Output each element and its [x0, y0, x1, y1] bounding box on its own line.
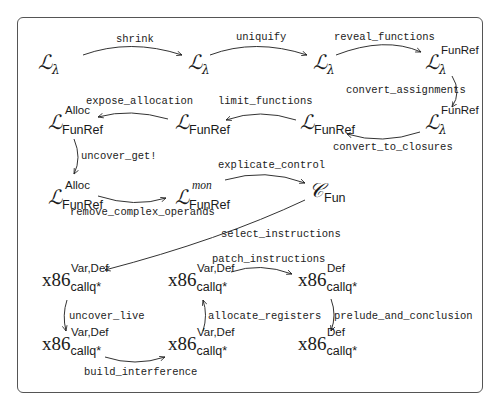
label-allocate-registers: allocate_registers: [208, 310, 321, 322]
node-subscript: callq*: [327, 280, 358, 294]
node-subscript: FunRef: [62, 123, 103, 137]
label-uniquify: uniquify: [236, 31, 286, 43]
label-reveal-functions: reveal_functions: [334, 31, 435, 43]
label-limit-functions: limit_functions: [218, 95, 313, 107]
node-l-lambda-2: ℒλ: [188, 52, 210, 72]
node-superscript: Def: [327, 263, 345, 275]
label-uncover-get: uncover_get!: [81, 150, 157, 162]
node-base: 𝒞: [309, 178, 324, 202]
label-build-interference: build_interference: [84, 366, 197, 378]
node-superscript: Var,Def: [197, 327, 235, 339]
node-l-lambda-1: ℒλ: [38, 52, 60, 72]
node-subscript: λ: [327, 63, 335, 77]
edge-reveal-functions: [336, 45, 421, 55]
label-convert-assignments: convert_assignments: [346, 84, 466, 96]
node-subscript: callq*: [197, 344, 228, 358]
node-x86-var-def-3: x86callq*Var,Def: [168, 334, 227, 353]
node-base: x86: [42, 269, 71, 290]
node-l-lambda-funref-1: ℒλFunRef: [425, 52, 447, 72]
node-subscript: λ: [439, 123, 447, 137]
node-x86-var-def-2: x86callq*Var,Def: [42, 334, 101, 353]
edge-build-interference: [105, 357, 165, 362]
node-l-lambda-funref-2: ℒλFunRef: [425, 112, 447, 132]
label-patch-instructions: patch_instructions: [212, 253, 325, 265]
edge-limit-functions: [226, 114, 296, 120]
label-explicate-control: explicate_control: [218, 159, 325, 171]
node-superscript: Alloc: [65, 180, 90, 192]
node-superscript: FunRef: [441, 45, 479, 57]
node-l-funref-alloc-2: ℒFunRefAlloc: [48, 187, 103, 207]
node-l-funref: ℒFunRef: [300, 112, 355, 132]
edge-remove-complex-operands: [98, 196, 166, 203]
node-superscript: FunRef: [441, 105, 479, 117]
node-subscript: λ: [202, 63, 210, 77]
node-c-fun: 𝒞Fun: [309, 180, 346, 200]
edge-expose-allocation: [98, 113, 168, 119]
node-subscript: callq*: [71, 344, 102, 358]
node-x86-def-1: x86callq*Def: [298, 270, 357, 289]
node-base: x86: [168, 333, 197, 354]
node-l-funref-mon: ℒFunRefmon: [175, 187, 230, 207]
node-base: ℒ: [175, 110, 189, 134]
node-subscript: FunRef: [314, 123, 355, 137]
node-subscript: λ: [52, 63, 60, 77]
node-superscript: Def: [327, 327, 345, 339]
label-uncover-live: uncover_live: [69, 310, 145, 322]
label-remove-complex-operands: remove_complex_operands: [70, 206, 215, 218]
node-base: ℒ: [425, 50, 439, 74]
node-l-funref-2: ℒFunRef: [175, 112, 230, 132]
node-x86-var-def-1: x86callq*Var,Def: [42, 270, 101, 289]
node-subscript: FunRef: [189, 123, 230, 137]
node-base: ℒ: [188, 50, 202, 74]
label-convert-to-closures: convert_to_closures: [333, 141, 453, 153]
node-x86-def-2: x86callq*Def: [298, 334, 357, 353]
node-base: ℒ: [313, 50, 327, 74]
node-subscript: λ: [439, 63, 447, 77]
node-subscript: callq*: [197, 280, 228, 294]
node-superscript: Var,Def: [71, 327, 109, 339]
node-base: x86: [298, 269, 327, 290]
node-l-funref-alloc-1: ℒFunRefAlloc: [48, 112, 103, 132]
node-x86-var-def-4: x86callq*Var,Def: [168, 270, 227, 289]
edge-uniquify: [210, 47, 307, 56]
node-subscript: callq*: [71, 280, 102, 294]
edge-uncover-get: [74, 139, 78, 174]
node-base: ℒ: [48, 110, 62, 134]
node-base: ℒ: [38, 50, 52, 74]
node-subscript: callq*: [327, 344, 358, 358]
label-select-instructions: select_instructions: [221, 228, 341, 240]
edge-explicate-control: [225, 175, 305, 183]
node-subscript: Fun: [324, 191, 346, 205]
node-base: ℒ: [425, 110, 439, 134]
node-base: x86: [298, 333, 327, 354]
label-shrink: shrink: [116, 33, 154, 45]
node-base: ℒ: [48, 185, 62, 209]
edge-patch-instructions: [231, 267, 292, 274]
node-base: x86: [168, 269, 197, 290]
node-base: x86: [42, 333, 71, 354]
node-superscript: mon: [192, 180, 212, 192]
edge-shrink: [83, 47, 182, 56]
node-superscript: Var,Def: [71, 263, 109, 275]
edge-uncover-live: [64, 300, 67, 331]
label-expose-allocation: expose_allocation: [86, 95, 193, 107]
node-l-lambda-3: ℒλ: [313, 52, 335, 72]
node-base: ℒ: [300, 110, 314, 134]
label-prelude-and-conclusion: prelude_and_conclusion: [334, 310, 473, 322]
edge-convert-to-closures: [347, 132, 420, 139]
